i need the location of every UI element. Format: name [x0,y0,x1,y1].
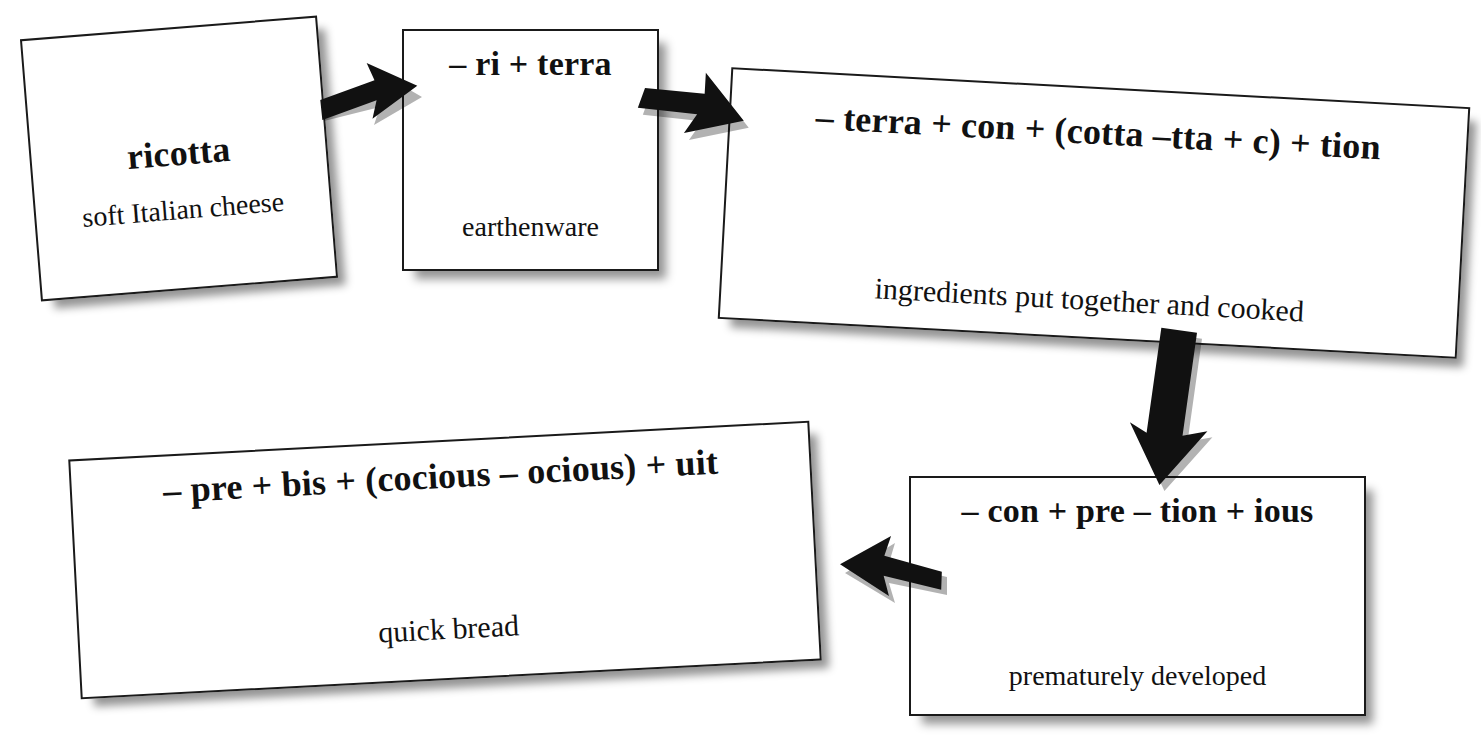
node-concoction-content: – terra + con + (cotta –tta + c) + tion … [720,69,1468,356]
node-concoction[interactable]: – terra + con + (cotta –tta + c) + tion … [718,67,1471,359]
node-precocious-gloss: prematurely developed [911,660,1364,692]
node-terracotta-gloss: earthenware [404,211,657,243]
node-precocious-content: – con + pre – tion + ious prematurely de… [911,478,1364,714]
node-biscuit-gloss: quick bread [79,592,818,665]
node-concoction-gloss: ingredients put together and cooked [721,262,1458,336]
node-terracotta[interactable]: – ri + terra earthenware [402,29,659,271]
node-precocious-formula: – con + pre – tion + ious [911,492,1364,530]
node-ricotta[interactable]: ricotta soft Italian cheese [20,15,338,301]
node-ricotta-gloss: soft Italian cheese [35,182,331,238]
node-ricotta-formula: ricotta [30,121,326,185]
node-terracotta-content: – ri + terra earthenware [404,31,657,269]
node-terracotta-formula: – ri + terra [404,45,657,83]
arrow-down-icon [1110,330,1260,495]
node-biscuit[interactable]: – pre + bis + (cocious – ocious) + uit q… [68,421,822,700]
node-biscuit-formula: – pre + bis + (cocious – ocious) + uit [71,437,810,516]
node-precocious[interactable]: – con + pre – tion + ious prematurely de… [909,476,1366,716]
node-concoction-formula: – terra + con + (cotta –tta + c) + tion [730,92,1467,172]
node-ricotta-content: ricotta soft Italian cheese [22,18,336,300]
diagram-canvas: ricotta soft Italian cheese – ri + terra… [0,0,1481,748]
node-biscuit-content: – pre + bis + (cocious – ocious) + uit q… [70,423,819,697]
